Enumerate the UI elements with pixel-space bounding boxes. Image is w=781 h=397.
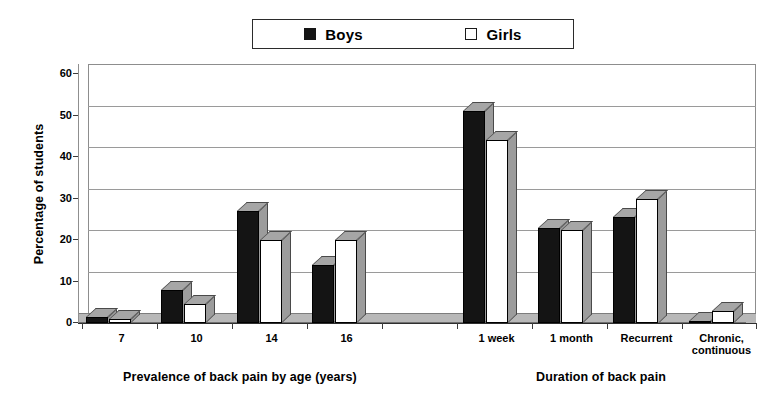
bar-boys-16: [312, 265, 334, 323]
x-axis-line: [78, 323, 756, 324]
x-tick-label-1-week: 1 week: [459, 332, 534, 344]
legend-swatch-girls-icon: [465, 28, 477, 40]
x-tick-label-recurrent: Recurrent: [609, 332, 684, 344]
x-tick-label-chronic: Chronic, continuous: [684, 332, 759, 356]
legend-swatch-boys-icon: [304, 28, 316, 40]
x-tick-mark-1: [157, 323, 158, 329]
bar-boys-1-week: [463, 111, 485, 323]
x-tick-mark-0: [82, 323, 83, 329]
x-tick-label-1-month: 1 month: [534, 332, 609, 344]
bar-front-face: [312, 265, 334, 323]
x-tick-mark-7: [607, 323, 608, 329]
legend-label-girls: Girls: [486, 27, 521, 42]
bar-front-face: [613, 217, 635, 323]
legend-entry-boys: Boys: [304, 27, 362, 42]
bar-front-face: [712, 311, 734, 323]
x-tick-label-7: 7: [84, 332, 159, 344]
bar-girls-14: [260, 240, 282, 323]
legend-label-boys: Boys: [325, 27, 362, 42]
bar-boys-10: [161, 290, 183, 323]
bar-front-face: [161, 290, 183, 323]
bar-front-face: [538, 228, 560, 323]
bar-front-face: [636, 199, 658, 324]
bar-boys-recurrent: [613, 217, 635, 323]
bar-side-face: [583, 221, 592, 323]
bar-front-face: [237, 211, 259, 323]
bar-side-face: [357, 231, 366, 323]
bar-front-face: [486, 140, 508, 323]
x-tick-mark-3: [307, 323, 308, 329]
x-axis: 7 10 14 16 1 week 1 month Recurrent Chro…: [78, 323, 756, 393]
bar-side-face: [508, 132, 517, 323]
bar-front-face: [260, 240, 282, 323]
chart-legend: Boys Girls: [252, 19, 574, 49]
bar-side-face: [282, 231, 291, 323]
bar-girls-recurrent: [636, 199, 658, 324]
x-tick-mark-4: [382, 323, 383, 329]
x-tick-label-16: 16: [309, 332, 384, 344]
y-tick-label-10: 10: [44, 275, 72, 287]
y-tick-label-20: 20: [44, 233, 72, 245]
legend-entry-girls: Girls: [465, 27, 521, 42]
bar-series-container: [78, 64, 756, 323]
x-tick-label-14: 14: [234, 332, 309, 344]
x-tick-mark-5: [457, 323, 458, 329]
bar-girls-10: [184, 304, 206, 323]
bar-girls-16: [335, 240, 357, 323]
y-tick-label-60: 60: [44, 67, 72, 79]
group-title-prevalence: Prevalence of back pain by age (years): [60, 370, 420, 384]
x-tick-mark-2: [232, 323, 233, 329]
bar-girls-1-week: [486, 140, 508, 323]
x-tick-mark-8: [682, 323, 683, 329]
bar-boys-14: [237, 211, 259, 323]
bar-chart-figure: Boys Girls Percentage of students 60 50 …: [0, 0, 781, 397]
bar-front-face: [463, 111, 485, 323]
bar-side-face: [658, 190, 667, 323]
bar-front-face: [335, 240, 357, 323]
x-tick-mark-9: [756, 323, 757, 329]
bar-girls-chronic-continuous: [712, 311, 734, 323]
x-tick-mark-6: [532, 323, 533, 329]
y-tick-label-40: 40: [44, 150, 72, 162]
bar-girls-1-month: [561, 230, 583, 323]
y-tick-label-0: 0: [44, 316, 72, 328]
group-title-duration: Duration of back pain: [446, 370, 756, 384]
y-tick-label-50: 50: [44, 109, 72, 121]
x-tick-label-10: 10: [159, 332, 234, 344]
bar-front-face: [561, 230, 583, 323]
bar-front-face: [184, 304, 206, 323]
y-tick-label-30: 30: [44, 192, 72, 204]
bar-boys-1-month: [538, 228, 560, 323]
